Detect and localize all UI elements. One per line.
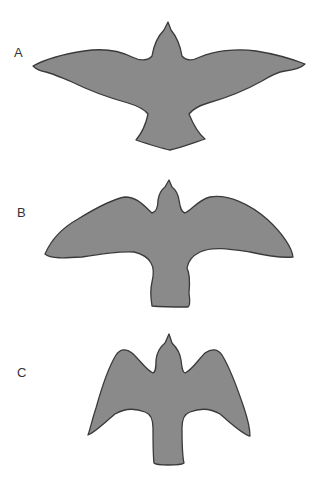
bird-silhouettes-diagram <box>0 0 318 480</box>
bird-silhouette-c <box>88 334 250 465</box>
bird-silhouette-a <box>33 22 305 150</box>
bird-silhouette-b <box>45 180 293 307</box>
